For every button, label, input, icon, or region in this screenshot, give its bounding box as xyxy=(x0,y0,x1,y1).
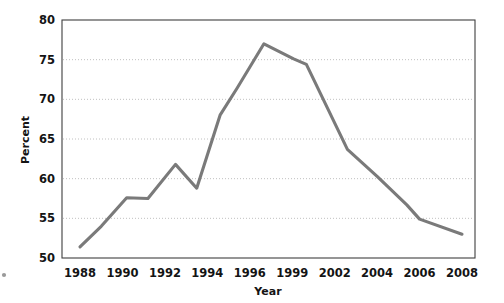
y-tick-label: 75 xyxy=(39,53,55,67)
y-tick-label: 50 xyxy=(39,251,55,265)
y-tick-label: 65 xyxy=(39,132,55,146)
chart-figure: 50556065707580 1988199019921994199619992… xyxy=(0,0,504,303)
x-tick-label: 1988 xyxy=(64,266,96,280)
x-axis-title: Year xyxy=(253,285,282,298)
page-corner-artifact xyxy=(2,273,6,277)
y-tick-label: 55 xyxy=(39,211,55,225)
x-tick-label: 1999 xyxy=(276,266,308,280)
x-tick-label: 2006 xyxy=(404,266,436,280)
y-tick-labels-group: 50556065707580 xyxy=(39,13,55,265)
x-tick-labels-group: 1988199019921994199619992002200420062008 xyxy=(64,266,478,280)
x-tick-label: 2008 xyxy=(446,266,478,280)
x-tick-label: 1990 xyxy=(106,266,138,280)
x-tick-label: 2002 xyxy=(319,266,351,280)
line-chart-svg: 50556065707580 1988199019921994199619992… xyxy=(0,0,504,303)
x-tick-label: 1994 xyxy=(191,266,223,280)
y-axis-title: Percent xyxy=(19,116,32,164)
y-tick-label: 60 xyxy=(39,172,55,186)
x-tick-label: 1992 xyxy=(149,266,181,280)
x-tick-label: 1996 xyxy=(234,266,266,280)
y-tick-label: 70 xyxy=(39,92,55,106)
y-tick-label: 80 xyxy=(39,13,55,27)
data-series-line xyxy=(80,44,462,247)
x-tick-label: 2004 xyxy=(361,266,393,280)
gridlines-group xyxy=(63,60,474,219)
